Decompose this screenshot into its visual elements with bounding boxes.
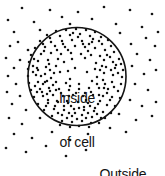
solute-particle-outside (119, 32, 122, 35)
solute-particle-inside (60, 53, 63, 56)
solute-particle-inside (119, 97, 122, 100)
solute-particle-outside (129, 99, 132, 102)
solute-particle-outside (135, 119, 138, 122)
solute-particle-outside (25, 151, 28, 154)
solute-particle-inside (102, 79, 105, 82)
solute-particle-inside (82, 43, 85, 46)
solute-particle-inside (44, 81, 47, 84)
solute-particle-outside (8, 117, 11, 120)
solute-particle-inside (46, 34, 49, 37)
solute-particle-inside (69, 34, 72, 37)
solute-particle-inside (52, 84, 55, 87)
solute-particle-inside (61, 120, 64, 123)
solute-particle-inside (46, 93, 49, 96)
solute-particle-inside (62, 43, 65, 46)
solute-particle-inside (103, 87, 106, 90)
solute-particle-inside (88, 43, 91, 46)
solute-particle-inside (98, 40, 101, 43)
solute-particle-inside (66, 117, 69, 120)
solute-particle-inside (51, 115, 54, 118)
solute-particle-outside (91, 18, 94, 21)
solute-particle-outside (7, 75, 10, 78)
solute-particle-inside (50, 77, 53, 80)
solute-particle-inside (71, 115, 74, 118)
solute-particle-inside (42, 43, 45, 46)
solute-particle-inside (27, 75, 30, 78)
solute-particle-inside (64, 46, 67, 49)
solute-particle-inside (76, 118, 79, 121)
solute-particle-inside (81, 120, 84, 123)
solute-particle-outside (151, 115, 154, 118)
solute-particle-inside (107, 88, 110, 91)
solute-particle-inside (81, 40, 84, 43)
solute-particle-outside (9, 45, 12, 48)
solute-particle-inside (79, 33, 82, 36)
solute-particle-outside (134, 83, 137, 86)
solute-particle-outside (118, 113, 121, 116)
solute-particle-inside (115, 64, 118, 67)
solute-particle-outside (143, 73, 146, 76)
solute-particle-inside (74, 45, 77, 48)
solute-particle-outside (7, 19, 10, 22)
solute-particle-inside (74, 112, 77, 115)
solute-particle-outside (31, 137, 34, 140)
solute-particle-inside (113, 86, 116, 89)
solute-particle-inside (109, 99, 112, 102)
solute-particle-outside (13, 67, 16, 70)
solute-particle-inside (103, 59, 106, 62)
solute-particle-inside (53, 72, 56, 75)
solute-particle-inside (30, 54, 33, 57)
solute-particle-inside (30, 89, 33, 92)
solute-particle-outside (85, 149, 88, 152)
solute-particle-inside (107, 39, 110, 42)
solute-particle-inside (47, 99, 50, 102)
solute-particle-inside (93, 110, 96, 113)
solute-particle-inside (112, 74, 115, 77)
solute-particle-inside (120, 63, 123, 66)
solute-particle-inside (100, 36, 103, 39)
solute-particle-inside (92, 94, 95, 97)
solute-particle-inside (77, 36, 80, 39)
solute-particle-inside (40, 75, 43, 78)
solute-particle-inside (73, 108, 76, 111)
solute-particle-inside (77, 101, 80, 104)
solute-particle-outside (109, 127, 112, 130)
solute-particle-inside (78, 125, 81, 128)
solute-particle-inside (62, 95, 65, 98)
solute-particle-inside (90, 122, 93, 125)
solute-particle-inside (70, 105, 73, 108)
cell-diffusion-diagram: Inside of cell Outside of cell (0, 0, 165, 176)
solute-particle-inside (87, 112, 90, 115)
solute-particle-inside (40, 53, 43, 56)
solute-particle-inside (57, 58, 60, 61)
solute-particle-inside (78, 107, 81, 110)
solute-particle-inside (98, 87, 101, 90)
solute-particle-outside (103, 6, 106, 9)
solute-particle-outside (154, 45, 157, 48)
solute-particle-inside (68, 89, 71, 92)
solute-particle-inside (65, 29, 68, 32)
solute-particle-inside (109, 56, 112, 59)
solute-particle-inside (78, 83, 81, 86)
solute-particle-inside (111, 96, 114, 99)
solute-particle-outside (129, 9, 132, 12)
solute-particle-inside (94, 31, 97, 34)
solute-particle-inside (117, 90, 120, 93)
solute-particle-inside (49, 37, 52, 40)
solute-particle-inside (114, 67, 117, 70)
solute-particle-outside (6, 91, 9, 94)
solute-particle-inside (111, 81, 114, 84)
solute-particle-inside (36, 91, 39, 94)
solute-particle-outside (19, 59, 22, 62)
solute-particle-inside (94, 68, 97, 71)
solute-particle-outside (49, 9, 52, 12)
solute-particle-inside (35, 74, 38, 77)
solute-particle-inside (91, 41, 94, 44)
solute-particle-inside (60, 92, 63, 95)
solute-particle-inside (117, 72, 120, 75)
solute-particle-inside (102, 95, 105, 98)
solute-particle-inside (63, 61, 66, 64)
solute-particle-outside (5, 57, 8, 60)
solute-particle-inside (28, 82, 31, 85)
solute-particle-outside (147, 89, 150, 92)
